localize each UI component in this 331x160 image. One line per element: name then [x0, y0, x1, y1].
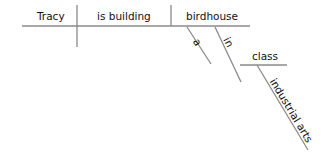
subject-word: Tracy: [37, 10, 65, 22]
preposition-slant: [215, 27, 241, 82]
verb-word: is building: [97, 10, 151, 22]
object-word: birdhouse: [186, 10, 238, 22]
prep-object-word: class: [252, 50, 278, 62]
article-slant: [187, 27, 211, 64]
diagram-lines: [0, 0, 331, 160]
